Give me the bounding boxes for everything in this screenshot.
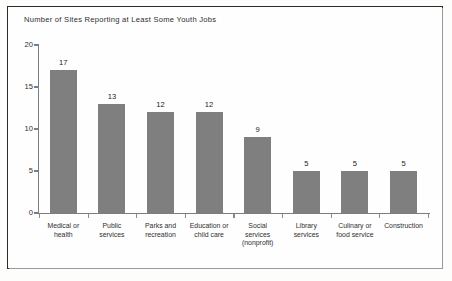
bar xyxy=(147,112,174,213)
category-label-line: (nonprofit) xyxy=(229,239,286,248)
x-tick-mark xyxy=(282,214,283,218)
y-tick-mark xyxy=(34,86,38,87)
x-tick-mark xyxy=(379,214,380,218)
x-tick-mark xyxy=(331,214,332,218)
y-tick-mark xyxy=(34,128,38,129)
bar-chart-plot-area: 05101520 171312129555 Medical orhealthPu… xyxy=(0,0,452,281)
bar xyxy=(341,171,368,213)
y-tick-mark xyxy=(34,44,38,45)
category-label: Construction xyxy=(375,222,432,231)
bar-value-label: 5 xyxy=(283,160,330,168)
bar xyxy=(390,171,417,213)
bar xyxy=(244,137,271,213)
y-tick-label: 5 xyxy=(20,167,33,175)
bar-value-label: 17 xyxy=(40,59,87,67)
x-tick-mark xyxy=(136,214,137,218)
y-tick-mark xyxy=(34,170,38,171)
x-tick-mark xyxy=(88,214,89,218)
bar xyxy=(50,70,77,213)
y-tick-label: 20 xyxy=(20,41,33,49)
bar xyxy=(196,112,223,213)
y-axis-line xyxy=(38,44,39,214)
x-tick-mark xyxy=(39,214,40,218)
chart-screenshot: Number of Sites Reporting at Least Some … xyxy=(0,0,452,281)
bar-value-label: 12 xyxy=(137,101,184,109)
bar-value-label: 12 xyxy=(186,101,233,109)
bar xyxy=(98,104,125,213)
x-tick-mark xyxy=(185,214,186,218)
x-tick-mark xyxy=(233,214,234,218)
bar xyxy=(293,171,320,213)
category-label-line: food service xyxy=(327,231,384,240)
bar-value-label: 5 xyxy=(380,160,427,168)
bar-value-label: 5 xyxy=(331,160,378,168)
y-tick-label: 15 xyxy=(20,83,33,91)
y-tick-mark xyxy=(34,212,38,213)
y-tick-label: 10 xyxy=(20,125,33,133)
category-label-line: Construction xyxy=(375,222,432,231)
x-tick-mark xyxy=(428,214,429,218)
bar-value-label: 9 xyxy=(234,126,281,134)
bar-value-label: 13 xyxy=(88,93,135,101)
y-tick-label: 0 xyxy=(20,209,33,217)
